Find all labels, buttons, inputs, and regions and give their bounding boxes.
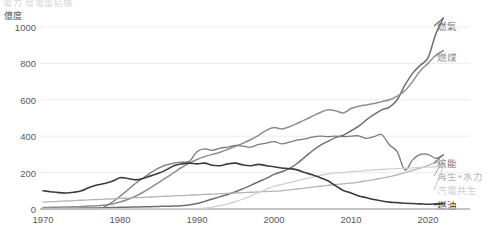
legend-connector-coal: [434, 51, 443, 57]
series-line-renew: [43, 160, 443, 202]
chart-container: 電力 發電量結構 億度 02004006008001000 1970198019…: [0, 0, 501, 243]
legend-connector-cogen: [434, 166, 443, 190]
plot-area: [0, 0, 501, 243]
series-line-nuclear: [43, 134, 443, 209]
series-line-gas: [43, 18, 443, 209]
gridlines: [40, 27, 470, 209]
series-lines: [43, 18, 443, 209]
